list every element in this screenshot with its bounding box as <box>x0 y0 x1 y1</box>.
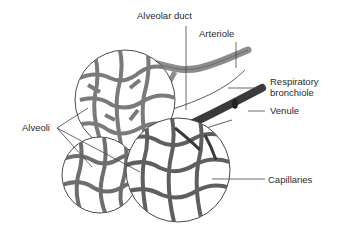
label-respiratory-bronchiole-2: bronchiole <box>270 87 314 98</box>
label-arteriole: Arteriole <box>199 28 234 39</box>
label-respiratory-bronchiole-1: Respiratory <box>270 76 319 87</box>
label-alveoli: Alveoli <box>22 122 50 133</box>
alveolus-bottom-right <box>126 118 230 222</box>
label-capillaries: Capillaries <box>268 174 312 185</box>
label-venule: Venule <box>270 105 299 116</box>
label-alveolar-duct: Alveolar duct <box>137 10 192 21</box>
